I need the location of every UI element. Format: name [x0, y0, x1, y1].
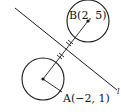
radius-a — [43, 79, 62, 92]
segment-ab — [43, 21, 88, 79]
label-a: A(−2, 1) — [62, 92, 110, 105]
label-line-l: l — [117, 87, 120, 96]
center-a-dot — [41, 77, 44, 80]
label-b: B(2, 5) — [69, 9, 107, 22]
diagram-canvas: B(2, 5) A(−2, 1) l — [0, 0, 121, 112]
